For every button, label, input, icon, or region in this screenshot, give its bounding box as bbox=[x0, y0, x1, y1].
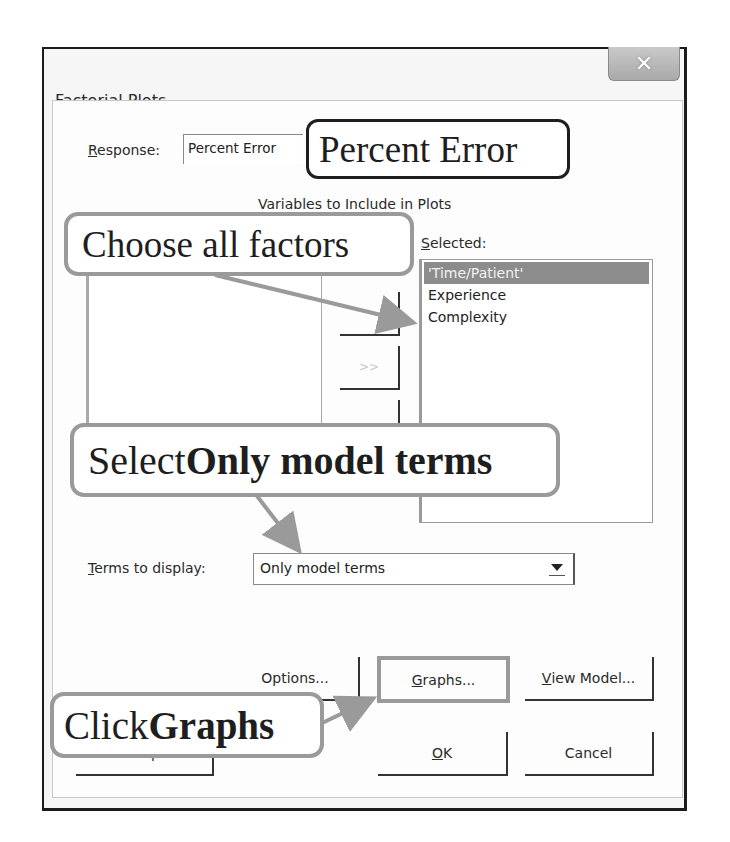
dropdown-button-underline bbox=[549, 575, 565, 576]
selected-list-item[interactable]: Complexity bbox=[424, 306, 649, 328]
graphs-button[interactable]: Graphs... bbox=[377, 656, 510, 703]
response-field[interactable]: Percent Error bbox=[183, 134, 303, 164]
factors-callout: Choose all factors bbox=[64, 212, 414, 276]
ok-button[interactable]: OK bbox=[378, 732, 508, 776]
cancel-button[interactable]: Cancel bbox=[525, 732, 654, 776]
close-x-icon: ✕ bbox=[635, 51, 653, 76]
add-one-button[interactable]: > bbox=[340, 292, 400, 336]
graphs-callout: Click Graphs bbox=[50, 692, 324, 758]
terms-dropdown[interactable]: Only model terms bbox=[253, 553, 575, 585]
selected-list-item[interactable]: 'Time/Patient' bbox=[424, 262, 649, 284]
close-button[interactable]: ✕ bbox=[608, 47, 680, 81]
response-label: Response: bbox=[88, 142, 160, 158]
selected-list-item[interactable]: Experience bbox=[424, 284, 649, 306]
variables-group-label: Variables to Include in Plots bbox=[258, 196, 451, 212]
chevron-down-icon[interactable] bbox=[551, 564, 563, 571]
add-all-button[interactable]: >> bbox=[340, 346, 400, 390]
terms-label: Terms to display: bbox=[88, 560, 206, 576]
terms-dropdown-value: Only model terms bbox=[260, 560, 385, 576]
view-model-button[interactable]: View Model... bbox=[525, 657, 654, 701]
selected-label: Selected: bbox=[421, 235, 486, 251]
response-callout: Percent Error bbox=[306, 119, 570, 179]
terms-callout: Select Only model terms bbox=[70, 423, 560, 497]
